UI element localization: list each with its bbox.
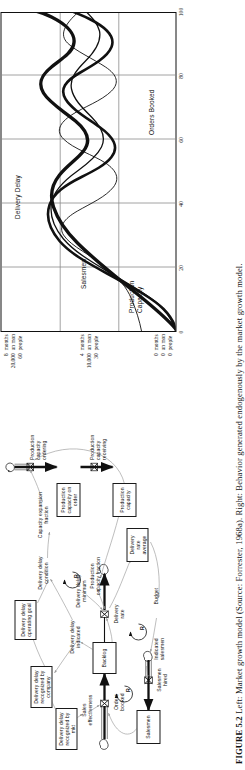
scale-unit: un mon xyxy=(159,334,166,350)
figure-caption-label: FIGURE 5.2 xyxy=(233,716,243,764)
aux-delivery-delay-condition: Delivery delay condition xyxy=(36,552,48,594)
stock-delivery-delay-recognized-by-mkt-label: Delivery delay recognized by mkt xyxy=(57,712,75,745)
stock-backlog: Backlog xyxy=(92,642,116,674)
x-tick: 80 xyxy=(177,73,183,79)
flow-orders-booked-label: Orders booked xyxy=(112,688,124,716)
scale-value: 10,000 xyxy=(85,353,92,368)
scale-value: 0 xyxy=(166,353,173,356)
stock-backlog-label: Backlog xyxy=(101,649,107,668)
flow-production-capacity-receiving-label: Production capacity receiving xyxy=(88,428,106,460)
chart-scale-upper-units: months un mon people xyxy=(2,334,23,350)
chart-annotation-orders-booked: Orders Booked xyxy=(147,89,155,135)
x-tick: 20 xyxy=(177,265,183,271)
aux-delivery-delay-indicated: Delivery delay indicated xyxy=(68,616,80,658)
chart-x-axis: 0 20 40 60 80 100 xyxy=(176,12,188,332)
chart-scale-middle: 4 10,000 30 months un mon people xyxy=(78,334,99,368)
chart-scale-upper: 8 20,000 60 months un mon people xyxy=(2,334,23,368)
stock-delivery-delay-recognized-by-company-label: Delivery delay recognized by company xyxy=(32,670,50,703)
aux-production-capacity-fraction: Production capacity fraction xyxy=(88,552,100,600)
x-tick: 0 xyxy=(177,331,183,334)
chart-scale-zero-values: 0 0 0 xyxy=(152,353,173,356)
stock-delivery-delay-operating-goal: Delivery delay operating goal xyxy=(14,600,36,640)
stock-salesmen-label: Salesmen xyxy=(145,715,151,738)
chart-annotation-production-capacity: Production Capacity xyxy=(127,280,142,313)
scale-value: 0 xyxy=(159,353,166,356)
scale-unit: months xyxy=(78,334,85,350)
scale-value: 0 xyxy=(152,353,159,356)
stock-delivery-rate-average: Delivery rate average xyxy=(126,528,148,562)
stock-delivery-rate-average-label: Delivery rate average xyxy=(128,531,146,559)
chart-scale-middle-values: 4 10,000 30 xyxy=(78,353,99,368)
loop-r-capacity-label: R xyxy=(72,574,78,578)
figure-panels: Backlog Salesmen Production capacity Pro… xyxy=(0,0,225,770)
scale-unit: months xyxy=(152,334,159,350)
chart-scale-upper-values: 8 20,000 60 xyxy=(2,353,23,368)
scale-value: 20,000 xyxy=(9,353,16,368)
figure-caption-text: Left: Market growth model (Source: Forre… xyxy=(233,263,243,714)
chart-scale-middle-units: months un mon people xyxy=(78,334,99,350)
stock-production-capacity-label: Production capacity xyxy=(118,487,130,512)
scale-unit: months xyxy=(2,334,9,350)
scale-unit: people xyxy=(166,334,173,350)
figure-rotation-container: Backlog Salesmen Production capacity Pro… xyxy=(0,0,245,770)
x-tick: 40 xyxy=(177,201,183,207)
stock-delivery-delay-recognized-by-company: Delivery delay recognized by company xyxy=(30,666,52,708)
x-tick: 60 xyxy=(177,137,183,143)
aux-capacity-expansion-fraction: Capacity expansion fraction xyxy=(36,488,48,542)
scale-unit: un mon xyxy=(9,334,16,350)
scale-unit: un mon xyxy=(85,334,92,350)
behavior-over-time-chart: 8 20,000 60 months un mon people 4 xyxy=(0,0,225,378)
aux-budget: Budget xyxy=(152,582,158,610)
stock-production-capacity-on-order-label: Production capacity on order xyxy=(59,487,77,514)
chart-scale-zero: 0 0 0 months un mon people xyxy=(152,334,173,356)
flow-delivery-rate-label: Delivery rate xyxy=(112,600,124,628)
scale-value: 8 xyxy=(2,353,9,368)
chart-scale-column: 8 20,000 60 months un mon people 4 xyxy=(0,332,176,378)
x-tick: 100 xyxy=(177,8,183,16)
stock-production-capacity-on-order: Production capacity on order xyxy=(56,483,80,517)
stock-production-capacity: Production capacity xyxy=(112,483,136,517)
aux-indicated-salesmen: Indicated salesmen xyxy=(152,632,164,666)
loop-r-delivery-label: R xyxy=(138,626,144,630)
scale-value: 60 xyxy=(16,353,23,368)
market-growth-stock-flow-diagram: Backlog Salesmen Production capacity Pro… xyxy=(0,378,225,770)
stock-salesmen: Salesmen xyxy=(136,710,160,744)
chart-annotation-salesmen: Salesmen xyxy=(79,259,87,289)
loop-r-sales-label: R xyxy=(124,688,130,692)
chart-lines xyxy=(1,12,176,331)
figure-caption: FIGURE 5.2 Left: Market growth model (So… xyxy=(225,0,245,770)
stock-delivery-delay-recognized-by-mkt: Delivery delay recognized by mkt xyxy=(55,708,77,750)
chart-plot-row: 8 20,000 60 months un mon people 4 xyxy=(0,0,176,378)
scale-value: 4 xyxy=(78,353,85,368)
scale-unit: people xyxy=(92,334,99,350)
figure-5-2: Backlog Salesmen Production capacity Pro… xyxy=(0,0,245,770)
chart-plot-area: Delivery Delay Salesmen Production Capac… xyxy=(0,12,176,332)
chart-annotation-delivery-delay: Delivery Delay xyxy=(13,175,21,219)
flow-salesmen-hired-label: Salesmen hired xyxy=(155,666,167,694)
scale-value: 30 xyxy=(92,353,99,368)
stock-delivery-delay-operating-goal-label: Delivery delay operating goal xyxy=(19,603,31,637)
aux-sales-effectiveness: Sales effectiveness xyxy=(80,692,92,728)
flow-production-capacity-ordering-label: Production capacity ordering xyxy=(28,428,46,460)
scale-unit: people xyxy=(16,334,23,350)
chart-scale-zero-units: months un mon people xyxy=(152,334,173,350)
